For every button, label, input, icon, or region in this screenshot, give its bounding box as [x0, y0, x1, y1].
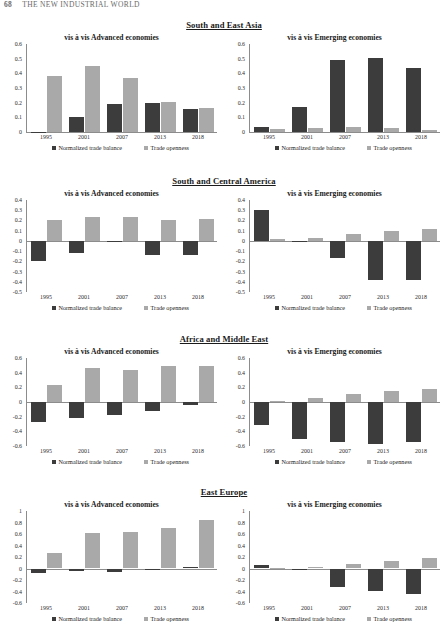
bar-group: [250, 511, 288, 603]
region-block: East Europevis à vis Advanced economies-…: [0, 487, 448, 622]
legend-item-normalized-trade-balance[interactable]: Normalized trade balance: [275, 615, 345, 622]
y-tick-label: -0.4: [236, 589, 245, 595]
bar-trade-openness: [199, 219, 214, 241]
bar-normalized-trade-balance: [183, 402, 198, 405]
bar-groups: [250, 511, 440, 603]
legend-swatch-light: [367, 460, 371, 464]
y-tick-label: 0: [242, 129, 245, 135]
bar-group: [402, 358, 440, 446]
legend-label: Normalized trade balance: [281, 615, 345, 622]
bar-trade-openness: [161, 528, 176, 568]
legend-item-normalized-trade-balance[interactable]: Normalized trade balance: [275, 458, 345, 465]
y-tick-label: 0.4: [238, 197, 245, 203]
legend-item-normalized-trade-balance[interactable]: Normalized trade balance: [52, 144, 122, 151]
bar-group: [27, 358, 65, 446]
x-tick-label: 2007: [103, 294, 141, 301]
plot-area: -0.6-0.4-0.200.20.40.60.81: [26, 511, 217, 603]
chart-legend: Normalized trade balanceTrade openness: [2, 458, 221, 465]
x-tick-label: 1995: [250, 294, 288, 301]
legend-item-trade-openness[interactable]: Trade openness: [144, 304, 189, 311]
bar-groups: [250, 200, 440, 292]
bar-trade-openness: [346, 234, 361, 240]
panel-row: vis à vis Advanced economies-0.6-0.4-0.2…: [0, 500, 448, 622]
legend-swatch-dark: [275, 617, 279, 621]
y-tick-label: 0.4: [238, 70, 245, 76]
legend-item-trade-openness[interactable]: Trade openness: [144, 458, 189, 465]
y-axis: -0.6-0.4-0.200.20.40.60.81: [2, 511, 24, 603]
x-tick-label: 1995: [27, 294, 65, 301]
y-tick-label: -0.4: [13, 589, 22, 595]
y-tick-label: -0.6: [236, 600, 245, 606]
legend-item-trade-openness[interactable]: Trade openness: [144, 144, 189, 151]
bar-group: [326, 200, 364, 292]
legend-label: Normalized trade balance: [58, 615, 122, 622]
legend-item-normalized-trade-balance[interactable]: Normalized trade balance: [52, 304, 122, 311]
chart-panel: vis à vis Advanced economies-0.6-0.4-0.2…: [2, 347, 221, 465]
chart-panel: vis à vis Emerging economies-0.5-0.4-0.3…: [225, 189, 444, 311]
chart-legend: Normalized trade balanceTrade openness: [2, 144, 221, 151]
legend-item-normalized-trade-balance[interactable]: Normalized trade balance: [52, 458, 122, 465]
chart-legend: Normalized trade balanceTrade openness: [225, 458, 444, 465]
legend-item-normalized-trade-balance[interactable]: Normalized trade balance: [275, 304, 345, 311]
bar-normalized-trade-balance: [330, 402, 345, 442]
y-axis: -0.5-0.4-0.3-0.2-0.100.10.20.30.4: [225, 200, 247, 292]
bar-normalized-trade-balance: [368, 569, 383, 592]
bar-trade-openness: [47, 76, 62, 132]
legend-item-trade-openness[interactable]: Trade openness: [367, 144, 412, 151]
legend-label: Normalized trade balance: [58, 144, 122, 151]
x-tick-label: 2001: [65, 134, 103, 141]
chart-panel: vis à vis Advanced economies-0.5-0.4-0.3…: [2, 189, 221, 311]
y-tick-label: -0.6: [13, 600, 22, 606]
x-tick-label: 1995: [27, 605, 65, 612]
bar-trade-openness: [384, 391, 399, 402]
chart-panel: vis à vis Emerging economies-0.6-0.4-0.2…: [225, 347, 444, 465]
y-tick-label: 1: [19, 508, 22, 514]
x-tick-label: 2018: [179, 448, 217, 455]
y-axis: -0.5-0.4-0.3-0.2-0.100.10.20.30.4: [2, 200, 24, 292]
y-tick-label: 0.2: [238, 554, 245, 560]
bar-groups: [250, 44, 440, 132]
x-tick-label: 2018: [402, 448, 440, 455]
y-tick-label: 0.4: [15, 197, 22, 203]
bar-trade-openness: [308, 398, 323, 402]
legend-item-trade-openness[interactable]: Trade openness: [367, 615, 412, 622]
bar-normalized-trade-balance: [292, 402, 307, 439]
legend-swatch-light: [367, 306, 371, 310]
x-tick-label: 2018: [402, 294, 440, 301]
bar-group: [65, 200, 103, 292]
bar-group: [288, 358, 326, 446]
bar-normalized-trade-balance: [145, 241, 160, 256]
y-tick-label: -0.1: [236, 248, 245, 254]
y-tick-label: 0.6: [238, 41, 245, 47]
panel-title: vis à vis Emerging economies: [225, 189, 444, 198]
chart-legend: Normalized trade balanceTrade openness: [2, 304, 221, 311]
x-tick-label: 2001: [288, 294, 326, 301]
bar-trade-openness: [270, 568, 285, 569]
bar-trade-openness: [199, 520, 214, 569]
x-tick-label: 2013: [141, 134, 179, 141]
bar-normalized-trade-balance: [31, 569, 46, 573]
legend-item-normalized-trade-balance[interactable]: Normalized trade balance: [275, 144, 345, 151]
bar-normalized-trade-balance: [183, 109, 198, 132]
page-number: 68: [4, 0, 12, 9]
legend-item-trade-openness[interactable]: Trade openness: [367, 458, 412, 465]
legend-swatch-dark: [52, 617, 56, 621]
bar-normalized-trade-balance: [69, 241, 84, 253]
y-tick-label: -0.3: [13, 269, 22, 275]
bar-normalized-trade-balance: [31, 402, 46, 422]
bar-group: [27, 200, 65, 292]
y-tick-label: 0.5: [15, 56, 22, 62]
x-tick-label: 1995: [250, 448, 288, 455]
bar-normalized-trade-balance: [254, 127, 269, 132]
panel-row: vis à vis Advanced economies-0.5-0.4-0.3…: [0, 189, 448, 311]
legend-item-trade-openness[interactable]: Trade openness: [367, 304, 412, 311]
legend-item-normalized-trade-balance[interactable]: Normalized trade balance: [52, 615, 122, 622]
y-tick-label: 0: [19, 566, 22, 572]
x-tick-label: 2018: [179, 605, 217, 612]
legend-item-trade-openness[interactable]: Trade openness: [144, 615, 189, 622]
legend-swatch-light: [367, 146, 371, 150]
y-tick-label: -0.6: [13, 443, 22, 449]
chart-panel: vis à vis Advanced economies-0.6-0.4-0.2…: [2, 500, 221, 622]
bar-trade-openness: [199, 108, 214, 132]
bar-group: [27, 511, 65, 603]
